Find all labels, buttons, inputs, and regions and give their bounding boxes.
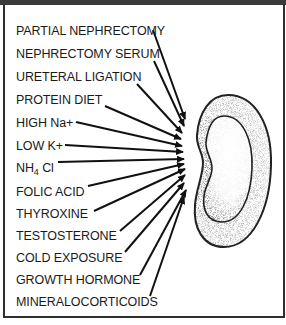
label-nephrectomy-serum: NEPHRECTOMY SERUM [16,47,160,61]
nh4-main: NH [16,161,34,175]
label-ureteral-ligation: URETERAL LIGATION [16,70,141,84]
nh4-rest: Cl [39,161,54,175]
arrow-high-na [76,122,182,146]
label-protein-diet: PROTEIN DIET [16,93,102,107]
label-mineralocorticoids: MINERALOCORTICOIDS [16,295,158,309]
label-testosterone: TESTOSTERONE [16,229,117,243]
label-high-na: HIGH Na+ [16,116,73,130]
label-low-k: LOW K+ [16,139,63,153]
arrow-thyroxine [94,169,185,211]
label-folic-acid: FOLIC ACID [16,185,84,199]
label-cold-exposure: COLD EXPOSURE [16,251,122,265]
arrow-nh4-cl [58,159,184,162]
arrow-growth-hormone [140,190,186,275]
label-partial-nephrectomy: PARTIAL NEPHRECTOMY [16,24,165,38]
arrow-folic-acid [88,164,184,186]
label-thyroxine: THYROXINE [16,207,88,221]
arrow-low-k [65,145,183,152]
arrow-protein-diet [105,106,181,139]
label-growth-hormone: GROWTH HORMONE [16,273,140,287]
arrow-nephrectomy-serum [154,61,184,126]
label-nh4-cl: NH4 Cl [16,161,54,179]
kidney-growth-stimuli-diagram: PARTIAL NEPHRECTOMY NEPHRECTOMY SERUM UR… [0,0,286,325]
